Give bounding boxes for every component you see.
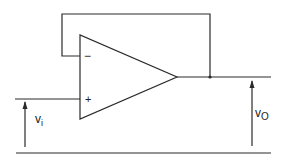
- feedback-wire: [62, 14, 210, 77]
- inverting-input-label: −: [84, 49, 91, 63]
- opamp-triangle: [80, 35, 177, 119]
- output-voltage-arrow: [250, 80, 255, 146]
- output-voltage-label: vO: [255, 106, 269, 122]
- noninverting-input-label: +: [85, 93, 91, 105]
- input-voltage-arrow: [23, 101, 28, 147]
- junction-dot: [208, 75, 211, 78]
- input-voltage-label: vi: [35, 112, 43, 128]
- voltage-follower-diagram: − + vi vO: [0, 0, 287, 161]
